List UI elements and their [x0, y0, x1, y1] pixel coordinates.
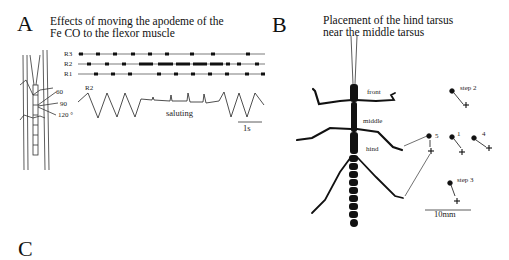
panel-c-letter: C	[18, 238, 33, 260]
